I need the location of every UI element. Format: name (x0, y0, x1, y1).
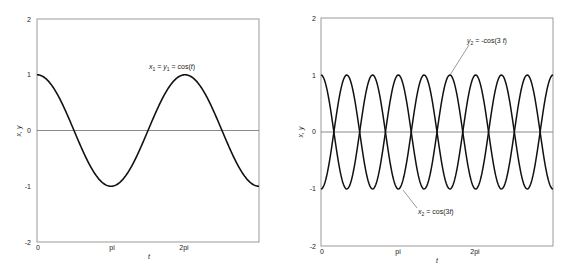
left-xtick-pi: pi (109, 244, 115, 252)
left-plot: 2 1 0 -1 -2 0 pi 2pi t x, y x1 = y1 = co… (15, 16, 259, 260)
right-ytick-neg2: -2 (310, 243, 316, 250)
right-annotation-top-leader (450, 45, 469, 75)
left-ylabel: x, y (15, 125, 23, 137)
right-ytick-2: 2 (312, 15, 316, 22)
left-ytick-neg1: -1 (25, 183, 31, 190)
left-annotation: x1 = y1 = cos(t) (148, 63, 195, 72)
right-ylabel: x, y (297, 126, 305, 138)
right-annotation-bottom-leader (403, 190, 417, 208)
left-ytick-2: 2 (27, 16, 31, 23)
right-xtick-0: 0 (320, 248, 324, 255)
left-xtick-2pi: 2pi (179, 244, 189, 252)
left-xtick-0: 0 (36, 244, 40, 251)
right-ytick-1: 1 (312, 72, 316, 79)
right-plot: 2 1 0 -1 -2 0 pi 2pi t x, y y2 = -cos(3 … (297, 15, 553, 264)
left-xlabel: t (148, 253, 151, 260)
right-xtick-pi: pi (395, 248, 401, 256)
left-ytick-1: 1 (27, 71, 31, 78)
right-xlabel: t (436, 257, 439, 264)
left-ytick-0: 0 (27, 127, 31, 134)
right-ytick-0: 0 (312, 128, 316, 135)
right-annotation-top: y2 = -cos(3 t) (466, 37, 507, 46)
right-ytick-neg1: -1 (310, 185, 316, 192)
figure: 2 1 0 -1 -2 0 pi 2pi t x, y x1 = y1 = co… (0, 0, 575, 275)
left-ytick-neg2: -2 (25, 239, 31, 246)
right-annotation-bottom: x2 = cos(3t) (417, 208, 454, 217)
right-xtick-2pi: 2pi (470, 248, 480, 256)
